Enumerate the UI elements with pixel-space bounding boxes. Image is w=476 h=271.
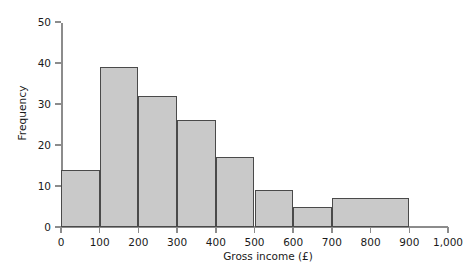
histogram-bar bbox=[138, 96, 177, 227]
y-tick-50 bbox=[55, 21, 61, 23]
histogram-bar bbox=[100, 67, 139, 227]
histogram-bar bbox=[293, 207, 332, 228]
histogram-bar bbox=[177, 120, 216, 227]
x-tick-label-1000: 1,000 bbox=[418, 236, 476, 248]
x-tick-1000 bbox=[447, 227, 449, 233]
histogram-bar bbox=[332, 198, 409, 227]
x-tick-700 bbox=[331, 227, 333, 233]
x-axis-label-text: Gross income (£) bbox=[223, 250, 313, 262]
y-tick-label-10: 10 bbox=[11, 180, 51, 192]
x-axis-label: Gross income (£) bbox=[0, 250, 476, 262]
x-tick-800 bbox=[370, 227, 372, 233]
y-tick-label-40: 40 bbox=[11, 57, 51, 69]
x-tick-0 bbox=[60, 227, 62, 233]
x-tick-300 bbox=[176, 227, 178, 233]
y-tick-label-0: 0 bbox=[11, 221, 51, 233]
x-tick-600 bbox=[292, 227, 294, 233]
plot-area: 01020304050 0100200300400500600700800900… bbox=[0, 0, 476, 271]
x-tick-100 bbox=[99, 227, 101, 233]
y-tick-20 bbox=[55, 144, 61, 146]
y-tick-30 bbox=[55, 103, 61, 105]
y-tick-40 bbox=[55, 62, 61, 64]
histogram-figure: Frequency 01020304050 010020030040050060… bbox=[0, 0, 476, 271]
x-tick-400 bbox=[215, 227, 217, 233]
histogram-bar bbox=[216, 157, 255, 227]
x-tick-200 bbox=[138, 227, 140, 233]
histogram-bar bbox=[255, 190, 294, 227]
y-tick-label-50: 50 bbox=[11, 16, 51, 28]
y-tick-label-30: 30 bbox=[11, 98, 51, 110]
x-tick-500 bbox=[254, 227, 256, 233]
x-tick-900 bbox=[409, 227, 411, 233]
y-tick-label-20: 20 bbox=[11, 139, 51, 151]
histogram-bar bbox=[61, 170, 100, 227]
